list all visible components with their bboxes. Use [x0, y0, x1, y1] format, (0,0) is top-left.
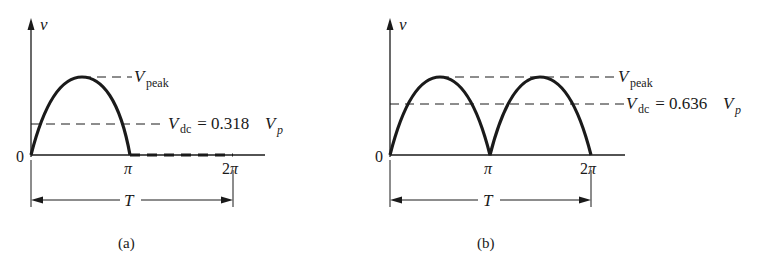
svg-text:peak: peak [146, 76, 169, 90]
svg-text:p: p [734, 103, 741, 117]
panel-b-left-arrow-icon [390, 197, 402, 204]
panel-b-origin-label: 0 [375, 148, 383, 165]
svg-text:peak: peak [630, 76, 653, 90]
panel-b-full-wave-curve [390, 77, 591, 155]
panel-a-caption: (a) [118, 235, 135, 252]
panel-a-half-sine-curve [31, 77, 130, 155]
panel-a-period-label: T [124, 191, 135, 210]
panel-a-vdc-label: V dc = 0.318 V p [168, 114, 283, 137]
panel-b-y-axis-arrow-icon [387, 18, 394, 30]
panel-b-right-arrow-icon [579, 197, 591, 204]
svg-text:dc: dc [638, 102, 649, 116]
panel-b-vdc-label: V dc = 0.636 V p [626, 94, 741, 117]
panel-b-peak-label: V peak [618, 67, 653, 90]
panel-a-y-label: v [40, 15, 48, 34]
panel-b-y-label: v [399, 15, 407, 34]
panel-a-tick-2pi: 2π [222, 160, 239, 177]
panel-b-tick-pi: π [484, 160, 493, 177]
svg-text:dc: dc [180, 122, 191, 136]
panel-a-tick-pi: π [124, 160, 133, 177]
svg-text:p: p [276, 123, 283, 137]
panel-b-caption: (b) [477, 235, 495, 252]
panel-a-y-axis-arrow-icon [28, 18, 35, 30]
panel-b-period-label: T [483, 191, 494, 210]
panel-a-origin-label: 0 [16, 148, 24, 165]
panel-a-peak-label: V peak [134, 67, 169, 90]
panel-b-full-wave: v 0 V peak V dc = 0.636 V p π 2π T [375, 15, 741, 252]
panel-a-right-arrow-icon [221, 197, 233, 204]
svg-text:= 0.636: = 0.636 [651, 94, 707, 113]
panel-a-half-wave: v 0 V peak V dc = 0.318 V p π 2π [16, 15, 283, 252]
rectifier-waveforms-diagram: v 0 V peak V dc = 0.318 V p π 2π [0, 0, 760, 276]
svg-text:= 0.318: = 0.318 [193, 114, 249, 133]
panel-a-left-arrow-icon [31, 197, 43, 204]
panel-b-tick-2pi: 2π [580, 160, 597, 177]
